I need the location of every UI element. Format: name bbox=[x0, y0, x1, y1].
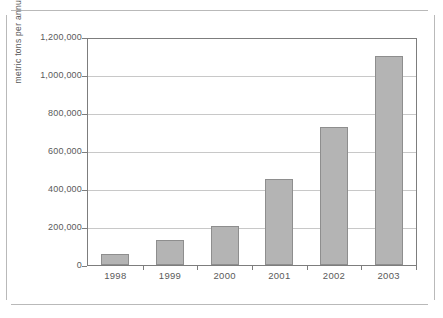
y-axis-tick-mark bbox=[82, 38, 87, 39]
bar-slot bbox=[88, 39, 143, 265]
bar-slot bbox=[143, 39, 198, 265]
y-axis-tick-label: 1,000,000 bbox=[12, 70, 82, 80]
y-axis-tick-mark bbox=[82, 76, 87, 77]
y-axis-title: metric tons per annum bbox=[13, 0, 23, 98]
bar-1999[interactable] bbox=[156, 240, 184, 265]
y-axis-tick-label: 400,000 bbox=[12, 184, 82, 194]
x-axis-tick-label: 2002 bbox=[307, 270, 362, 281]
x-axis-tick-label: 2001 bbox=[252, 270, 307, 281]
y-axis-tick-mark bbox=[82, 114, 87, 115]
y-axis-tick-mark bbox=[82, 228, 87, 229]
y-axis-tick-label: 1,200,000 bbox=[12, 32, 82, 42]
x-axis-tick-label: 1998 bbox=[88, 270, 143, 281]
y-axis-tick-mark bbox=[82, 152, 87, 153]
bar-2003[interactable] bbox=[375, 56, 403, 265]
y-axis-tick-mark bbox=[82, 266, 87, 267]
bar-slot bbox=[307, 39, 362, 265]
bar-2002[interactable] bbox=[320, 127, 348, 265]
x-axis-tick-label: 1999 bbox=[143, 270, 198, 281]
y-axis-tick-mark bbox=[82, 190, 87, 191]
chart-page: metric tons per annum 0200,000400,000600… bbox=[0, 0, 443, 318]
y-axis-tick-label: 600,000 bbox=[12, 146, 82, 156]
y-axis-tick-label: 800,000 bbox=[12, 108, 82, 118]
bar-1998[interactable] bbox=[101, 254, 129, 265]
x-axis-tick-label: 2000 bbox=[197, 270, 252, 281]
bar-series bbox=[88, 39, 416, 265]
y-axis-tick-label: 0 bbox=[12, 260, 82, 270]
bar-2001[interactable] bbox=[265, 179, 293, 265]
y-axis-tick-label: 200,000 bbox=[12, 222, 82, 232]
bar-slot bbox=[252, 39, 307, 265]
bar-slot bbox=[361, 39, 416, 265]
bar-chart: metric tons per annum 0200,000400,000600… bbox=[0, 0, 443, 318]
x-axis-tick-mark bbox=[416, 266, 417, 270]
bar-2000[interactable] bbox=[211, 226, 239, 265]
x-axis-tick-label: 2003 bbox=[361, 270, 416, 281]
bar-slot bbox=[197, 39, 252, 265]
